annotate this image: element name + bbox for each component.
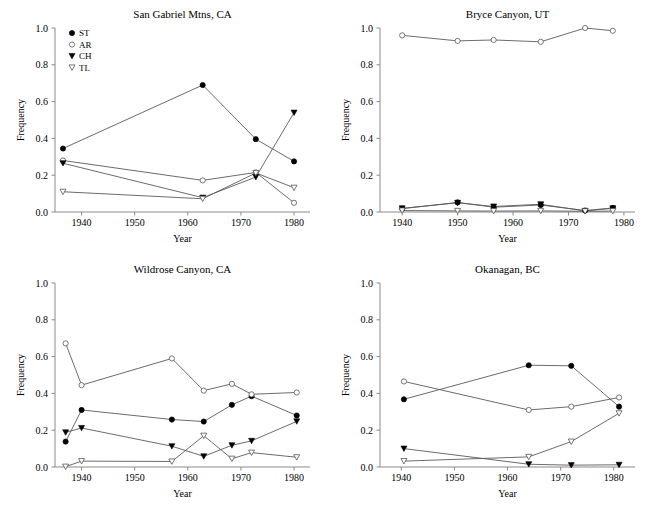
series-line-ST	[404, 365, 619, 406]
panel-title: Bryce Canyon, UT	[466, 8, 550, 20]
legend-label-TL: TL	[79, 63, 90, 73]
data-point-open-circle	[491, 37, 496, 42]
data-point-open-triangle-down	[229, 456, 235, 461]
data-point-open-triangle-down	[568, 439, 574, 444]
x-tick-label: 1980	[604, 472, 624, 483]
data-point-filled-circle	[253, 137, 258, 142]
data-point-filled-circle	[401, 397, 406, 402]
x-tick-label: 1970	[231, 217, 251, 228]
panel-title: Okanagan, BC	[475, 263, 540, 275]
y-tick-label: 0.6	[361, 96, 374, 107]
panel-title: San Gabriel Mtns, CA	[133, 8, 231, 20]
y-tick-label: 1.0	[36, 278, 49, 289]
series-line-CH	[66, 421, 297, 456]
data-point-filled-circle	[201, 419, 206, 424]
chart-panel-2: Bryce Canyon, UT0.00.20.40.60.81.0194019…	[325, 0, 650, 254]
x-tick-label: 1940	[392, 217, 412, 228]
data-point-open-circle	[526, 407, 531, 412]
data-point-filled-circle	[526, 363, 531, 368]
data-point-filled-circle	[169, 417, 174, 422]
data-point-filled-circle	[616, 404, 621, 409]
legend-label-ST: ST	[79, 28, 90, 38]
series-line-CH	[404, 449, 619, 466]
data-point-open-circle	[69, 42, 74, 47]
y-tick-label: 0.8	[36, 314, 49, 325]
chart-panel-3: Wildrose Canyon, CA0.00.20.40.60.81.0194…	[0, 255, 325, 509]
data-point-filled-circle	[291, 159, 296, 164]
data-point-open-circle	[249, 392, 254, 397]
data-point-open-triangle-down	[616, 411, 622, 416]
legend-label-CH: CH	[79, 51, 92, 61]
x-tick-label: 1950	[448, 217, 468, 228]
data-point-filled-circle	[569, 363, 574, 368]
x-tick-label: 1940	[72, 217, 92, 228]
data-point-open-circle	[79, 383, 84, 388]
y-tick-label: 0.4	[36, 133, 49, 144]
data-point-open-triangle-down	[69, 65, 75, 70]
x-axis-title: Year	[173, 488, 192, 499]
data-point-filled-circle	[60, 146, 65, 151]
data-point-open-circle	[63, 341, 68, 346]
x-tick-label: 1970	[558, 217, 578, 228]
x-tick-label: 1970	[231, 472, 251, 483]
data-point-filled-circle	[294, 413, 299, 418]
data-point-open-triangle-down	[291, 185, 297, 190]
y-tick-label: 0.8	[361, 59, 374, 70]
y-tick-label: 0.4	[361, 133, 374, 144]
chart-plot-area: Wildrose Canyon, CA0.00.20.40.60.81.0194…	[0, 255, 325, 509]
x-tick-label: 1970	[551, 472, 571, 483]
y-tick-label: 0.0	[36, 207, 49, 218]
y-tick-label: 0.8	[36, 59, 49, 70]
data-point-open-circle	[401, 379, 406, 384]
x-tick-label: 1980	[284, 217, 304, 228]
x-tick-label: 1960	[503, 217, 523, 228]
y-tick-label: 1.0	[361, 278, 374, 289]
data-point-open-circle	[538, 39, 543, 44]
y-axis-title: Frequency	[340, 354, 351, 396]
y-axis-title: Frequency	[340, 99, 351, 141]
data-point-filled-triangle-down	[169, 444, 175, 449]
data-point-open-circle	[294, 390, 299, 395]
data-point-filled-triangle-down	[201, 454, 207, 459]
data-point-filled-triangle-down	[69, 53, 75, 58]
data-point-open-circle	[201, 388, 206, 393]
series-line-TL	[66, 436, 297, 467]
x-tick-label: 1960	[178, 472, 198, 483]
y-tick-label: 0.6	[361, 351, 374, 362]
x-tick-label: 1950	[125, 472, 145, 483]
y-tick-label: 0.2	[36, 170, 49, 181]
series-line-AR	[63, 160, 294, 202]
x-tick-label: 1980	[284, 472, 304, 483]
series-line-AR	[404, 381, 619, 410]
y-tick-label: 0.2	[361, 170, 374, 181]
data-point-open-circle	[200, 178, 205, 183]
data-point-filled-circle	[69, 30, 74, 35]
x-tick-label: 1960	[178, 217, 198, 228]
data-point-filled-circle	[200, 82, 205, 87]
y-tick-label: 0.0	[361, 462, 374, 473]
data-point-open-circle	[583, 25, 588, 30]
series-line-CH	[63, 113, 294, 198]
series-line-ST	[63, 85, 294, 161]
data-point-open-circle	[455, 38, 460, 43]
figure-container: San Gabriel Mtns, CA0.00.20.40.60.81.019…	[0, 0, 650, 509]
legend-label-AR: AR	[79, 40, 92, 50]
y-tick-label: 0.2	[36, 425, 49, 436]
y-tick-label: 0.6	[36, 351, 49, 362]
x-axis-title: Year	[498, 488, 517, 499]
x-axis-title: Year	[173, 233, 192, 244]
y-tick-label: 0.4	[361, 388, 374, 399]
series-line-ST	[66, 396, 297, 441]
x-tick-label: 1950	[125, 217, 145, 228]
series-line-ST	[402, 202, 613, 210]
series-line-AR	[66, 343, 297, 394]
x-tick-label: 1940	[72, 472, 92, 483]
panel-title: Wildrose Canyon, CA	[134, 263, 232, 275]
data-point-open-circle	[169, 356, 174, 361]
x-tick-label: 1950	[444, 472, 464, 483]
y-tick-label: 1.0	[361, 23, 374, 34]
data-point-filled-triangle-down	[294, 419, 300, 424]
data-point-filled-triangle-down	[63, 430, 69, 435]
data-point-filled-triangle-down	[229, 443, 235, 448]
data-point-filled-triangle-down	[291, 110, 297, 115]
